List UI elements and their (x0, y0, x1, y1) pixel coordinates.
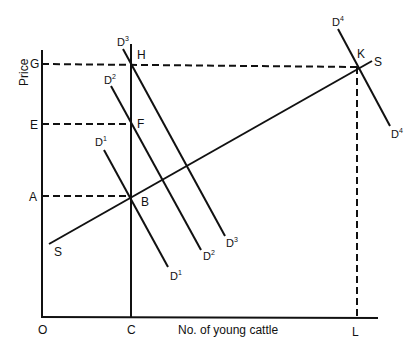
origin-label: O (38, 323, 47, 337)
label-a: A (29, 190, 37, 204)
d3-label-top: D3 (117, 35, 129, 48)
point-b: B (141, 195, 149, 209)
label-l: L (352, 325, 359, 339)
x-axis-label: No. of young cattle (178, 323, 278, 337)
d1-label-top: D1 (95, 135, 107, 148)
x-axis (41, 317, 378, 318)
d4-label-bottom: D4 (391, 127, 403, 140)
supply-label-start: S (54, 245, 62, 259)
supply-curve (49, 61, 372, 244)
supply-demand-diagram: Price No. of young cattle O C L G E A H … (0, 0, 420, 354)
demand-curve-d4 (338, 29, 390, 126)
point-k: K (357, 47, 365, 61)
point-f: F (137, 117, 144, 131)
demand-curve-d3 (123, 49, 225, 236)
d2-label-bottom: D2 (203, 249, 215, 262)
label-c: C (127, 323, 136, 337)
label-e: E (30, 118, 38, 132)
price-g-dashed (42, 64, 358, 67)
d3-label-bottom: D3 (226, 236, 238, 249)
d4-label-top: D4 (332, 15, 344, 28)
point-h: H (137, 48, 146, 62)
d2-label-top: D2 (104, 73, 116, 86)
supply-label-end: S (374, 55, 382, 69)
label-g: G (30, 57, 39, 71)
d1-label-bottom: D1 (170, 269, 182, 282)
y-axis-label: Price (17, 58, 31, 86)
